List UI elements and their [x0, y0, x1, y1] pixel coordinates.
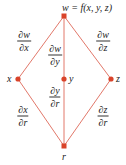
- tree-diagram: [0, 0, 126, 165]
- edge-label-dw-dz: ∂w ∂z: [96, 30, 110, 53]
- node-label-x: x: [7, 74, 11, 84]
- denominator: ∂r: [51, 98, 60, 109]
- node-label-r: r: [62, 152, 66, 162]
- denominator: ∂r: [19, 117, 28, 128]
- numerator: ∂w: [96, 30, 110, 42]
- node-label-w: w = f(x, y, z): [62, 3, 112, 13]
- denominator: ∂z: [99, 42, 108, 53]
- edge-label-dw-dx: ∂w ∂x: [17, 30, 31, 53]
- edge-label-dx-dr: ∂x ∂r: [17, 105, 28, 128]
- edge-label-dw-dy: ∂w ∂y: [48, 44, 62, 67]
- node-z: [108, 76, 113, 81]
- node-label-z: z: [116, 74, 120, 84]
- numerator: ∂x: [17, 105, 28, 117]
- denominator: ∂y: [50, 56, 59, 67]
- numerator: ∂y: [49, 86, 60, 98]
- denominator: ∂r: [99, 117, 108, 128]
- node-y: [61, 76, 66, 81]
- node-r: [62, 144, 67, 149]
- node-label-y: y: [69, 74, 73, 84]
- numerator: ∂z: [98, 105, 109, 117]
- numerator: ∂w: [17, 30, 31, 42]
- edge-label-dy-dr: ∂y ∂r: [49, 86, 60, 109]
- node-x: [15, 76, 20, 81]
- node-w: [62, 14, 67, 19]
- denominator: ∂x: [19, 42, 28, 53]
- edge-label-dz-dr: ∂z ∂r: [98, 105, 109, 128]
- numerator: ∂w: [48, 44, 62, 56]
